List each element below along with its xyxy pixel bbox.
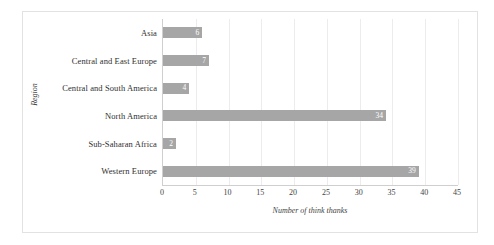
y-axis-tick-label: Asia (141, 28, 162, 38)
y-axis-tick-label: Sub-Saharan Africa (88, 139, 162, 149)
y-axis-tick: Central and East Europe (43, 47, 162, 75)
bar-row: 7 (163, 47, 458, 75)
y-axis-tick: Western Europe (43, 157, 162, 185)
bar-value-label: 39 (408, 167, 416, 175)
bar-value-label: 7 (202, 57, 206, 65)
bar[interactable]: 2 (163, 138, 176, 149)
y-axis-tick-label: Western Europe (101, 166, 162, 176)
x-axis-tick-label: 30 (355, 188, 363, 197)
y-axis-category-labels: Asia Central and East Europe Central and… (43, 19, 162, 185)
bar-row: 39 (163, 157, 458, 185)
bar-value-label: 2 (169, 140, 173, 148)
y-axis-tick: North America (43, 102, 162, 130)
bar-row: 34 (163, 102, 458, 130)
x-axis-tick-label: 45 (453, 188, 461, 197)
bar[interactable]: 6 (163, 27, 202, 38)
bar[interactable]: 39 (163, 166, 419, 177)
x-axis-line (162, 185, 458, 186)
x-axis-title: Number of think thanks (162, 206, 458, 215)
y-axis-tick: Sub-Saharan Africa (43, 130, 162, 158)
bar-value-label: 4 (182, 84, 186, 92)
x-axis-tick-label: 25 (322, 188, 330, 197)
bar-row: 2 (163, 130, 458, 158)
x-axis-tick-label: 40 (420, 188, 428, 197)
y-axis-tick-label: North America (105, 111, 162, 121)
gridline (458, 19, 459, 185)
y-axis-tick-label: Central and South America (62, 83, 162, 93)
bar[interactable]: 4 (163, 83, 189, 94)
bar[interactable]: 34 (163, 110, 386, 121)
bar[interactable]: 7 (163, 55, 209, 66)
bar-value-label: 34 (375, 112, 383, 120)
x-axis-tick-labels: 051015202530354045 (162, 188, 458, 202)
x-axis-tick-label: 35 (387, 188, 395, 197)
bar-row: 4 (163, 74, 458, 102)
x-axis-tick-label: 0 (160, 188, 164, 197)
y-axis-tick: Asia (43, 19, 162, 47)
x-axis-tick-label: 20 (289, 188, 297, 197)
bar-row: 6 (163, 19, 458, 47)
bar-value-label: 6 (196, 29, 200, 37)
x-axis-tick-label: 5 (193, 188, 197, 197)
x-axis-tick-label: 10 (224, 188, 232, 197)
y-axis-title: Region (30, 60, 39, 130)
y-axis-tick-label: Central and East Europe (72, 56, 162, 66)
bar-series: 6 7 4 34 2 (163, 19, 458, 185)
y-axis-tick: Central and South America (43, 74, 162, 102)
x-axis-tick-label: 15 (256, 188, 264, 197)
chart-figure: Region Asia Central and East Europe Cent… (22, 11, 478, 233)
plot-area: 6 7 4 34 2 (162, 19, 458, 185)
